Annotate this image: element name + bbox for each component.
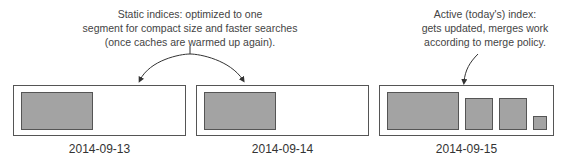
segment-medium [499, 98, 527, 130]
index-date-label: 2014-09-15 [379, 142, 554, 156]
segment [204, 92, 276, 130]
active-note-line-2: gets updated, merges work [415, 21, 555, 35]
active-note-line-3: according to merge policy. [415, 35, 555, 49]
arrow-to-2014-09-15 [464, 54, 478, 82]
arrow-to-2014-09-14 [190, 54, 243, 80]
index-2014-09-14 [196, 85, 369, 136]
index-2014-09-13 [13, 85, 186, 136]
index-date-label: 2014-09-13 [13, 142, 186, 156]
index-date-label: 2014-09-14 [196, 142, 369, 156]
static-indices-note: Static indices: optimized to one segment… [80, 7, 300, 49]
static-note-line-1: Static indices: optimized to one [80, 7, 300, 21]
segment-small [533, 116, 547, 130]
static-note-line-3: (once caches are warmed up again). [80, 35, 300, 49]
active-note-line-1: Active (today's) index: [415, 7, 555, 21]
index-2014-09-15 [379, 85, 554, 136]
static-note-line-2: segment for compact size and faster sear… [80, 21, 300, 35]
active-index-note: Active (today's) index: gets updated, me… [415, 7, 555, 49]
segment [21, 92, 93, 130]
arrow-to-2014-09-13 [140, 54, 190, 80]
segment-large [387, 92, 459, 130]
segment-medium [465, 98, 493, 130]
